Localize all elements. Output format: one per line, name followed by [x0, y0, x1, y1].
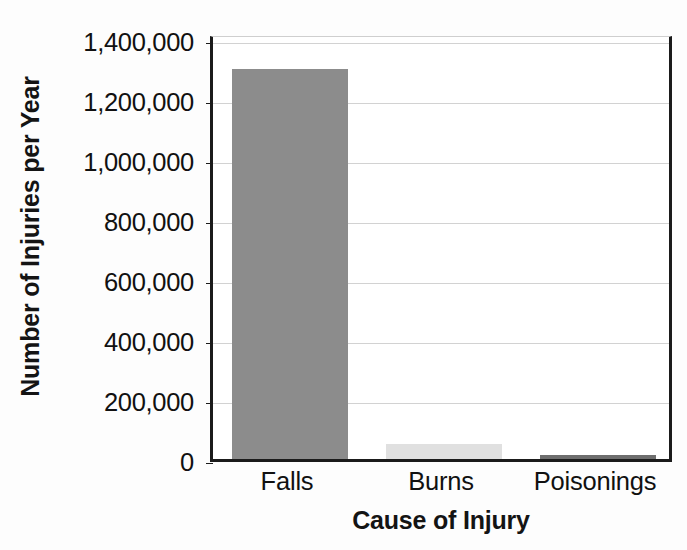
x-axis-tick-label: Burns — [364, 468, 518, 495]
bars-layer — [213, 37, 669, 459]
y-axis-tick — [206, 403, 213, 404]
y-axis-tick-label: 1,000,000 — [83, 150, 194, 176]
bar-poisonings — [540, 455, 656, 459]
y-axis-tick — [206, 163, 213, 164]
y-axis-tick — [206, 283, 213, 284]
bar-falls — [232, 69, 348, 459]
bar-burns — [386, 444, 502, 459]
bar-chart-figure: Number of Injuries per Year 1,400,0001,2… — [0, 0, 687, 550]
y-axis-tick-label: 600,000 — [104, 270, 194, 296]
y-axis-tick — [206, 43, 213, 44]
plot-area — [210, 36, 672, 462]
y-axis-tick-label: 0 — [180, 450, 194, 476]
y-axis-tick — [206, 463, 213, 464]
y-axis-tick — [206, 103, 213, 104]
y-axis-tick-label: 1,200,000 — [83, 90, 194, 116]
x-axis-tick-label: Poisonings — [518, 468, 672, 495]
y-axis-tick-label: 1,400,000 — [83, 30, 194, 56]
x-axis-title: Cause of Injury — [210, 506, 672, 535]
y-axis-tick-label: 800,000 — [104, 210, 194, 236]
y-axis-tick — [206, 223, 213, 224]
x-axis-tick-labels: FallsBurnsPoisonings — [210, 468, 672, 502]
y-axis-tick — [206, 343, 213, 344]
y-axis-tick-label: 200,000 — [104, 390, 194, 416]
y-axis-tick-labels: 1,400,0001,200,0001,000,000800,000600,00… — [28, 36, 202, 462]
x-axis-tick-label: Falls — [210, 468, 364, 495]
y-axis-tick-label: 400,000 — [104, 330, 194, 356]
